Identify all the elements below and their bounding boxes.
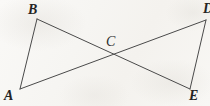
segment-b-a: [20, 19, 37, 89]
vertex-label-b: B: [28, 3, 37, 17]
segment-d-e: [190, 20, 206, 89]
segment-a-d: [20, 20, 206, 89]
vertex-label-d: D: [203, 2, 210, 16]
vertex-label-c: C: [106, 35, 115, 49]
vertex-label-e: E: [189, 89, 198, 103]
vertex-label-a: A: [4, 89, 13, 103]
geometry-figure: B A D E C: [0, 0, 210, 106]
